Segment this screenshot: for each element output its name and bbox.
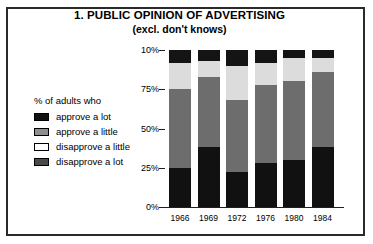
x-tick-label: 1984 [308,213,338,223]
legend-item-label: disapprove a little [56,141,130,152]
y-tick-mark [159,50,165,51]
y-tick-label: 25% [141,163,159,173]
legend-swatch-icon [34,113,49,121]
x-tick-label: 1969 [194,213,224,223]
bar-1969 [198,50,220,207]
x-tick-label: 1976 [251,213,281,223]
legend-swatch-icon [34,128,49,136]
y-tick-mark [159,207,165,208]
y-tick-label: 50% [141,124,159,134]
bar-segment [226,50,248,66]
chart-title-block: 1. PUBLIC OPINION OF ADVERTISING (excl. … [0,9,359,36]
bar-segment [198,77,220,148]
y-tick-label: 75% [141,84,159,94]
bar-segment [255,63,277,85]
legend-item-label: disapprove a lot [56,156,123,167]
y-tick-mark [159,168,165,169]
chart-subtitle: (excl. don't knows) [0,23,359,36]
legend-item-label: approve a lot [56,111,111,122]
y-tick-label: 0% [146,202,159,212]
bar-segment [198,50,220,61]
bar-segment [283,50,305,58]
y-tick-mark [159,129,165,130]
bar-segment [198,61,220,77]
legend-item: approve a lot [34,111,164,122]
bar-1972 [226,50,248,207]
bar-segment [255,85,277,164]
x-tick-label: 1980 [279,213,309,223]
legend-item: disapprove a little [34,141,164,152]
legend-heading: % of adults who [34,95,164,106]
bar-segment [198,147,220,207]
bar-1976 [255,50,277,207]
bar-segment [169,50,191,63]
bar-1966 [169,50,191,207]
bar-segment [312,50,334,58]
x-tick-label: 1966 [165,213,195,223]
legend-swatch-icon [34,158,49,166]
bar-segment [283,160,305,207]
bar-segment [169,63,191,90]
bar-segment [312,72,334,147]
bar-segment [312,58,334,72]
legend-swatch-icon [34,143,49,151]
bar-segment [283,81,305,160]
bar-1980 [283,50,305,207]
bar-segment [226,172,248,207]
plot-area: 0%25%50%75%10% 196619691972197619801984 [166,50,344,207]
chart-page: 1. PUBLIC OPINION OF ADVERTISING (excl. … [0,0,373,244]
bar-segment [283,58,305,82]
bar-segment [255,50,277,63]
legend-item-list: approve a lotapprove a littledisapprove … [34,111,164,167]
bar-segment [169,89,191,168]
page-title: 1. PUBLIC OPINION OF ADVERTISING [0,9,359,22]
bar-segment [169,168,191,207]
x-tick-label: 1972 [222,213,252,223]
bar-segment [226,66,248,101]
legend-item-label: approve a little [56,126,118,137]
bar-1984 [312,50,334,207]
bar-segment [255,163,277,207]
y-tick-mark [159,89,165,90]
bar-segment [312,147,334,207]
bar-segment [226,100,248,172]
y-tick-label: 10% [141,45,159,55]
x-axis-line [160,207,344,208]
